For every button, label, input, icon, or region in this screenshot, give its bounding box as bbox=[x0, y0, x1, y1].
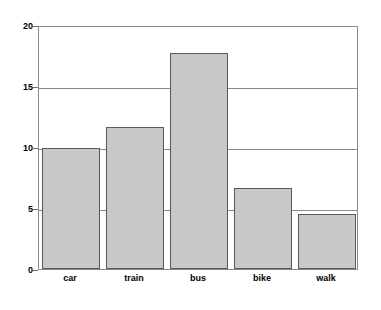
y-tick-label-10: 10 bbox=[3, 144, 33, 153]
y-tick-label-15: 15 bbox=[3, 83, 33, 92]
bar-train bbox=[106, 127, 164, 269]
bar-bus bbox=[170, 53, 228, 269]
x-tick-label-train: train bbox=[102, 274, 166, 283]
y-tick-mark-0 bbox=[33, 270, 38, 271]
y-tick-label-0: 0 bbox=[3, 266, 33, 275]
x-axis: cartrainbusbikewalk bbox=[38, 274, 358, 294]
plot-area bbox=[38, 26, 358, 270]
y-tick-label-5: 5 bbox=[3, 205, 33, 214]
x-tick-label-bus: bus bbox=[166, 274, 230, 283]
bar-car bbox=[42, 148, 100, 269]
y-tick-label-20: 20 bbox=[3, 22, 33, 31]
bar-bike bbox=[234, 188, 292, 269]
x-tick-label-bike: bike bbox=[230, 274, 294, 283]
x-tick-label-walk: walk bbox=[294, 274, 358, 283]
bar-chart: 05101520 cartrainbusbikewalk bbox=[0, 0, 381, 310]
bar-walk bbox=[298, 214, 356, 269]
x-tick-label-car: car bbox=[38, 274, 102, 283]
y-axis: 05101520 bbox=[0, 0, 33, 310]
